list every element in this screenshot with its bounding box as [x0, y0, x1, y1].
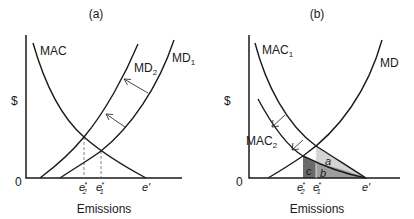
panel-b-e-prime-label: e'	[362, 181, 371, 193]
panel-b-title: (b)	[310, 7, 325, 21]
panel-a-e-prime-label: e'	[142, 181, 151, 193]
panel-a-md2-label: MD2	[134, 61, 158, 77]
panel-b-e1-star-label: e*1	[313, 181, 321, 195]
panel-b-mac2-label: MAC2	[246, 134, 278, 150]
panel-a-md1-curve	[60, 40, 174, 178]
panel-b-shift-arrow-lower	[292, 140, 303, 150]
area-b-label: b	[320, 167, 326, 179]
panel-b-e2-star-label: e*2	[297, 181, 305, 195]
panel-a-x-axis-label: Emissions	[77, 202, 132, 216]
panel-b: (b) $ 0 Emissions MAC1 MAC2	[224, 7, 400, 216]
panel-b-mac1-label: MAC1	[262, 43, 294, 59]
area-a-label: a	[325, 155, 331, 167]
panel-b-shift-arrow-upper	[272, 115, 285, 127]
panel-a-title: (a)	[89, 7, 104, 21]
panel-b-md-label: MD	[380, 56, 399, 70]
panel-a-y-axis-label: $	[11, 94, 18, 108]
panel-a-md1-label: MD1	[172, 51, 196, 67]
diagram-canvas: (a) $ 0 Emissions MAC MD2 MD1 e*2 e*1 e'	[0, 0, 414, 219]
area-c-label: c	[306, 165, 312, 177]
panel-a-origin-label: 0	[15, 175, 22, 189]
panel-b-x-axis-label: Emissions	[290, 202, 345, 216]
panel-a-shift-arrow-lower	[106, 114, 125, 127]
panel-a-mac-label: MAC	[40, 44, 67, 58]
panel-b-y-axis-label: $	[224, 94, 231, 108]
panel-b-origin-label: 0	[236, 175, 243, 189]
panel-a-e1-star-label: e*1	[96, 181, 104, 195]
panel-a: (a) $ 0 Emissions MAC MD2 MD1 e*2 e*1 e'	[11, 7, 196, 216]
panel-a-md2-curve	[40, 44, 138, 178]
panel-a-e2-star-label: e*2	[79, 181, 87, 195]
panel-a-shift-arrow-upper	[124, 79, 148, 93]
